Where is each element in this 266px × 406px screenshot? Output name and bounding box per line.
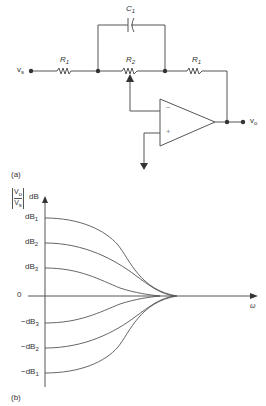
tick-neg-db1: −dB1 bbox=[21, 367, 39, 377]
y-axis-unit: dB bbox=[29, 192, 39, 201]
tick-db2: dB2 bbox=[25, 237, 38, 247]
r2-label: R2 bbox=[126, 55, 135, 65]
tick-db3: dB3 bbox=[25, 262, 38, 272]
resistor-r1-right bbox=[187, 68, 202, 74]
caption-a: (a) bbox=[11, 170, 21, 179]
curve-cut-db3 bbox=[45, 296, 160, 323]
r1-right-label: R1 bbox=[192, 55, 201, 65]
y-axis-arrow-icon bbox=[42, 196, 48, 203]
input-label: vs bbox=[17, 65, 24, 75]
capacitor-label: C1 bbox=[126, 4, 135, 14]
ground-icon bbox=[140, 163, 148, 170]
noninverting-input-sign: + bbox=[166, 127, 171, 136]
resistor-r2 bbox=[122, 68, 137, 74]
x-axis-label: ω bbox=[250, 302, 255, 309]
tick-neg-db2: −dB2 bbox=[21, 342, 39, 352]
wiper-arrow-icon bbox=[126, 74, 134, 82]
output-label: vo bbox=[250, 116, 257, 126]
r1-left-label: R1 bbox=[60, 55, 69, 65]
y-axis-label: Vo Vs bbox=[12, 188, 24, 209]
tick-zero: 0 bbox=[17, 290, 21, 299]
curve-boost-db3 bbox=[45, 268, 160, 296]
input-terminal bbox=[29, 69, 33, 73]
output-terminal bbox=[241, 120, 245, 124]
resistor-r1-left bbox=[57, 68, 71, 74]
caption-b: (b) bbox=[11, 393, 21, 402]
tick-db1: dB1 bbox=[25, 212, 38, 222]
inverting-input-sign: − bbox=[166, 103, 171, 112]
tick-neg-db3: −dB3 bbox=[21, 317, 39, 327]
x-axis-arrow-icon bbox=[250, 293, 258, 299]
